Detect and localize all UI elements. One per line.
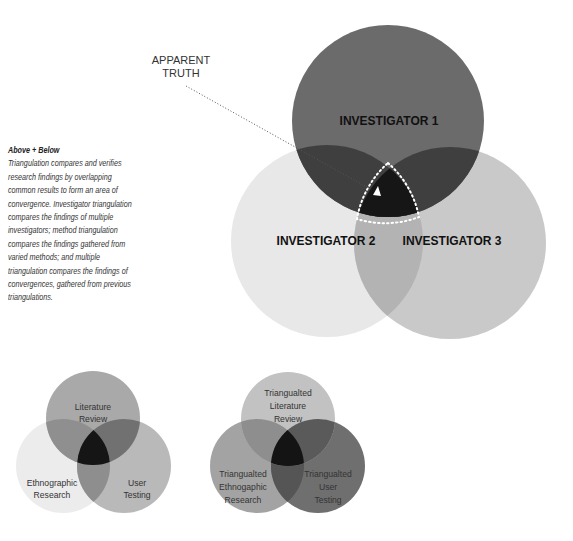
triangulation-diagrams: APPARENT TRUTH INVESTIGATOR 1 INVESTIGAT… (0, 0, 573, 541)
ethnographic-label-1: Ethnographic (27, 478, 78, 488)
apparent-truth-label-2: TRUTH (162, 67, 199, 79)
tri-literature-label-3: Review (274, 414, 303, 424)
investigator-1-label: INVESTIGATOR 1 (340, 114, 439, 128)
tri-ethnographic-label-3: Research (225, 495, 262, 505)
tri-ethnographic-label-1: Triangualted (219, 469, 267, 479)
literature-label-2: Review (79, 414, 108, 424)
ethnographic-label-2: Research (34, 490, 71, 500)
literature-label-1: Literature (75, 402, 112, 412)
tri-user-testing-label-1: Triangualted (304, 469, 352, 479)
investigator-venn: APPARENT TRUTH INVESTIGATOR 1 INVESTIGAT… (152, 25, 546, 339)
multiple-venn: Triangualted Literature Review Triangual… (210, 372, 365, 513)
tri-literature-label-2: Literature (270, 401, 307, 411)
investigator-2-label: INVESTIGATOR 2 (277, 234, 376, 248)
tri-literature-label-1: Triangualted (264, 388, 312, 398)
investigator-3-label: INVESTIGATOR 3 (403, 234, 502, 248)
method-venn: Literature Review Ethnographic Research … (16, 371, 171, 513)
tri-ethnographic-label-2: Ethnogaphic (219, 482, 267, 492)
user-testing-label-1: User (128, 478, 146, 488)
tri-user-testing-label-3: Testing (314, 495, 341, 505)
user-testing-label-2: Testing (123, 490, 150, 500)
apparent-truth-label-1: APPARENT (152, 54, 211, 66)
tri-user-testing-label-2: User (319, 482, 337, 492)
